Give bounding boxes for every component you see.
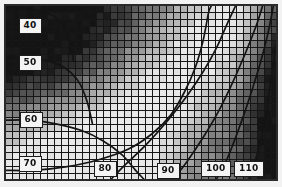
contour-label-40: 40 — [19, 18, 42, 34]
contour-label-70: 70 — [19, 156, 42, 172]
contour-label-60: 60 — [20, 112, 43, 128]
contour-label-80: 80 — [94, 161, 117, 177]
plot-frame — [4, 4, 278, 181]
contour-label-50: 50 — [19, 55, 42, 71]
contour-label-100: 100 — [201, 161, 231, 177]
contour-heatmap-canvas — [6, 6, 276, 179]
figure-container: 405060708090100110 — [0, 0, 282, 187]
contour-label-110: 110 — [234, 161, 264, 177]
contour-label-90: 90 — [157, 163, 180, 179]
